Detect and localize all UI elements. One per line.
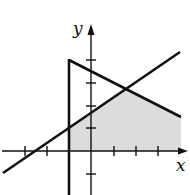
x-axis-arrow-icon <box>178 148 188 155</box>
y-axis-arrow-icon <box>88 24 95 35</box>
y-axis-label: y <box>73 18 83 38</box>
graph <box>0 0 190 195</box>
x-axis-label: x <box>176 155 186 175</box>
shaded-feasible-region <box>69 89 181 151</box>
